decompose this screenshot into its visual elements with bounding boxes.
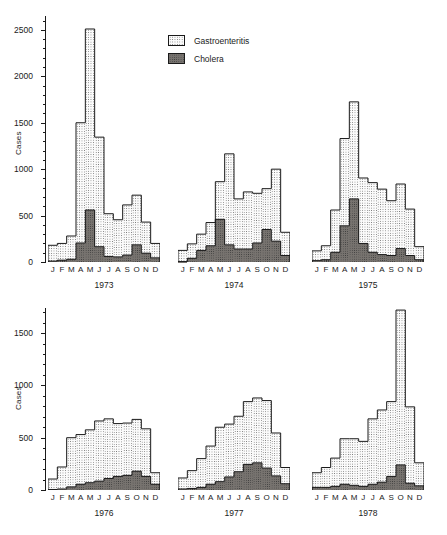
y-axis-tick-label: 1000 xyxy=(0,164,39,174)
y-axis-tick-label: 1000 xyxy=(0,380,39,390)
panel-1974-year-label: 1974 xyxy=(178,280,290,290)
bar-outline-overlay xyxy=(312,308,424,490)
panel-1977-plot xyxy=(178,308,290,490)
panel-1975-plot xyxy=(312,16,424,262)
y-axis-major-tick xyxy=(41,490,45,491)
y-axis-label-top: Cases xyxy=(14,131,23,155)
x-axis-tick-label: N xyxy=(141,493,150,502)
x-axis-tick-label: J xyxy=(95,493,104,502)
panel-1975-month-axis: JFMAMJJASOND xyxy=(312,265,424,274)
x-axis-tick-label: A xyxy=(243,265,252,274)
bar-outline-overlay xyxy=(178,308,290,490)
chart-figure: Cases 05001000150020002500 JFMAMJJASOND … xyxy=(0,0,447,535)
panel-1976-month-axis: JFMAMJJASOND xyxy=(48,493,160,502)
x-axis-tick-label: N xyxy=(405,265,414,274)
y-axis-minor-tick xyxy=(43,323,46,324)
x-axis-tick-label: M xyxy=(67,265,76,274)
x-axis-tick-label: A xyxy=(206,493,215,502)
x-axis-tick-label: J xyxy=(234,493,243,502)
x-axis-tick-label: J xyxy=(178,493,187,502)
x-axis-tick-label: D xyxy=(415,493,424,502)
y-axis-tick-label: 0 xyxy=(0,485,39,495)
x-axis-tick-label: N xyxy=(405,493,414,502)
y-axis-minor-tick xyxy=(43,21,46,22)
x-axis-tick-label: A xyxy=(113,493,122,502)
y-axis-minor-tick xyxy=(43,104,46,105)
x-axis-tick-label: D xyxy=(151,493,160,502)
x-axis-tick-label: D xyxy=(415,265,424,274)
y-axis-tick-label: 2500 xyxy=(0,25,39,35)
x-axis-tick-label: J xyxy=(225,493,234,502)
y-axis-minor-tick xyxy=(43,417,46,418)
y-axis-minor-tick xyxy=(43,67,46,68)
cholera-outline xyxy=(178,463,290,490)
x-axis-tick-label: N xyxy=(271,265,280,274)
legend-label-gastroenteritis: Gastroenteritis xyxy=(194,36,249,46)
chart-row-bottom: Cases 050010001500 JFMAMJJASOND JFMAMJJA… xyxy=(0,290,447,535)
y-axis-minor-tick xyxy=(43,178,46,179)
panel-1973-plot xyxy=(48,16,160,262)
y-axis-minor-tick xyxy=(43,197,46,198)
x-axis-tick-label: F xyxy=(321,493,330,502)
x-axis-tick-label: J xyxy=(178,265,187,274)
y-axis-major-tick xyxy=(41,438,45,439)
cholera-outline xyxy=(48,471,160,490)
x-axis-tick-label: J xyxy=(104,265,113,274)
panel-1973-year-label: 1973 xyxy=(48,280,160,290)
y-axis-tick-label: 2000 xyxy=(0,71,39,81)
x-axis-tick-label: A xyxy=(377,493,386,502)
x-axis-tick-label: A xyxy=(340,265,349,274)
x-axis-tick-label: F xyxy=(187,265,196,274)
x-axis-tick-label: N xyxy=(141,265,150,274)
x-axis-tick-label: A xyxy=(76,493,85,502)
y-axis-minor-tick xyxy=(43,225,46,226)
x-axis-tick-label: M xyxy=(215,493,224,502)
x-axis-tick-label: J xyxy=(359,265,368,274)
y-axis-minor-tick xyxy=(43,234,46,235)
y-axis-major-tick xyxy=(41,216,45,217)
panel-1978-plot xyxy=(312,308,424,490)
bar-outline-overlay xyxy=(312,16,424,262)
x-axis-tick-label: J xyxy=(359,493,368,502)
x-axis-tick-label: D xyxy=(281,265,290,274)
y-axis-minor-tick xyxy=(43,151,46,152)
y-axis-minor-tick xyxy=(43,206,46,207)
y-axis-minor-tick xyxy=(43,375,46,376)
y-axis-tick-label: 1500 xyxy=(0,118,39,128)
x-axis-tick-label: J xyxy=(312,493,321,502)
x-axis-tick-label: F xyxy=(187,493,196,502)
gastroenteritis-outline xyxy=(312,310,424,490)
x-axis-tick-label: D xyxy=(281,493,290,502)
y-axis-tick-label: 500 xyxy=(0,433,39,443)
y-axis-minor-tick xyxy=(43,427,46,428)
x-axis-tick-label: S xyxy=(387,265,396,274)
x-axis-tick-label: J xyxy=(48,493,57,502)
x-axis-tick-label: N xyxy=(271,493,280,502)
x-axis-tick-label: A xyxy=(340,493,349,502)
chart-legend: Gastroenteritis Cholera xyxy=(168,35,249,71)
y-axis-minor-tick xyxy=(43,469,46,470)
cholera-outline xyxy=(312,465,424,490)
y-axis-minor-tick xyxy=(43,480,46,481)
y-axis-major-tick xyxy=(41,385,45,386)
y-axis-major-tick xyxy=(41,76,45,77)
y-axis-major-tick xyxy=(41,169,45,170)
y-axis-minor-tick xyxy=(43,344,46,345)
x-axis-tick-label: M xyxy=(85,493,94,502)
y-axis-minor-tick xyxy=(43,396,46,397)
y-axis-minor-tick xyxy=(43,406,46,407)
y-axis-tick-label: 500 xyxy=(0,211,39,221)
x-axis-tick-label: A xyxy=(206,265,215,274)
y-axis-minor-tick xyxy=(43,354,46,355)
y-axis-major-tick xyxy=(41,123,45,124)
legend-label-cholera: Cholera xyxy=(194,54,224,64)
x-axis-tick-label: J xyxy=(104,493,113,502)
x-axis-tick-label: J xyxy=(234,265,243,274)
x-axis-tick-label: O xyxy=(396,493,405,502)
panel-1974-month-axis: JFMAMJJASOND xyxy=(178,265,290,274)
x-axis-tick-label: O xyxy=(262,265,271,274)
y-axis-major-tick xyxy=(41,333,45,334)
y-axis-spine xyxy=(45,16,46,263)
x-axis-tick-label: S xyxy=(123,493,132,502)
x-axis-tick-label: F xyxy=(57,493,66,502)
